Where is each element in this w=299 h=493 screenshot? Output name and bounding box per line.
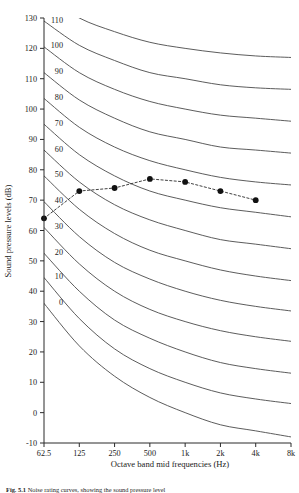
nr-curve-nr-0: [44, 303, 291, 437]
x-axis-title: Octave band mid frequencies (Hz): [111, 459, 229, 469]
y-tick-label-40: 40: [29, 287, 37, 296]
x-tick-label-4k: 4k: [252, 449, 261, 458]
nr-curve-nr-100: [44, 47, 291, 121]
axes-group: [40, 18, 291, 447]
nr-curve-label-40: 40: [55, 196, 63, 205]
nr-curve-label-60: 60: [55, 145, 63, 154]
nr-curve-label-20: 20: [55, 248, 63, 257]
spectrum-point-2k[interactable]: [218, 188, 224, 194]
nr-curve-label-10: 10: [55, 272, 63, 281]
y-tick-label-120: 120: [25, 44, 37, 53]
y-tick-label-0: 0: [33, 409, 37, 418]
y-tick-label-50: 50: [29, 257, 37, 266]
nr-curve-label-0: 0: [59, 298, 63, 307]
axis-labels-group: 0102030405060708090100110-10010203040506…: [25, 14, 296, 458]
measured-spectrum-line: [44, 179, 256, 218]
x-tick-label-125: 125: [73, 449, 85, 458]
y-axis-title: Sound pressure levels (dB): [3, 184, 13, 277]
y-tick-label-60: 60: [29, 227, 37, 236]
y-tick-label-130: 130: [25, 14, 37, 23]
x-tick-label-2k: 2k: [216, 449, 225, 458]
figure-caption: Fig. 5.1 Noise rating curves, showing th…: [6, 486, 295, 493]
nr-curve-nr-20: [44, 253, 291, 373]
y-tick-label--10: -10: [26, 439, 37, 448]
nr-curve-label-50: 50: [55, 170, 63, 179]
nr-curve-label-110: 110: [51, 16, 63, 25]
y-tick-label-100: 100: [25, 105, 37, 114]
nr-curve-nr-70: [44, 124, 291, 217]
y-tick-label-80: 80: [29, 166, 37, 175]
nr-curve-nr-110: [44, 21, 291, 89]
nr-curve-label-90: 90: [55, 67, 63, 76]
y-tick-label-10: 10: [29, 378, 37, 387]
nr-curve-nr-30: [44, 227, 291, 341]
x-tick-label-8k: 8k: [287, 449, 296, 458]
nr-curve-nr-80: [44, 98, 291, 185]
x-tick-label-62.5: 62.5: [37, 449, 51, 458]
x-tick-label-250: 250: [108, 449, 120, 458]
caption-label: Fig. 5.1: [6, 486, 26, 493]
spectrum-point-125[interactable]: [76, 188, 82, 194]
nr-curve-label-100: 100: [51, 41, 63, 50]
spectrum-point-250[interactable]: [112, 185, 118, 191]
x-tick-label-500: 500: [144, 449, 156, 458]
spectrum-point-500[interactable]: [147, 176, 153, 182]
nr-curve-label-30: 30: [55, 222, 63, 231]
spectrum-point-4k[interactable]: [253, 197, 259, 203]
nr-curves-group: [44, 0, 291, 437]
y-tick-label-30: 30: [29, 318, 37, 327]
measured-spectrum-group: [41, 176, 259, 221]
y-tick-label-110: 110: [25, 75, 37, 84]
nr-curve-label-80: 80: [55, 93, 63, 102]
x-tick-label-1k: 1k: [181, 449, 190, 458]
caption-text: Noise rating curves, showing the sound p…: [28, 486, 166, 493]
nr-curve-nr-120: [44, 0, 291, 57]
nr-curve-nr-10: [44, 278, 291, 404]
spectrum-point-1k[interactable]: [182, 179, 188, 185]
y-tick-label-90: 90: [29, 135, 37, 144]
y-tick-label-70: 70: [29, 196, 37, 205]
nr-curve-label-70: 70: [55, 119, 63, 128]
nr-curve-nr-90: [44, 73, 291, 153]
y-tick-label-20: 20: [29, 348, 37, 357]
